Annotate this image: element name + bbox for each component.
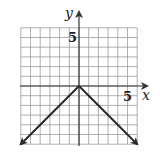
x-axis-label: x — [142, 87, 150, 103]
graph: y x 5 5 — [0, 0, 160, 154]
x-tick-label-5: 5 — [123, 89, 132, 104]
y-axis-label: y — [64, 5, 74, 21]
y-tick-label-5: 5 — [68, 30, 77, 45]
